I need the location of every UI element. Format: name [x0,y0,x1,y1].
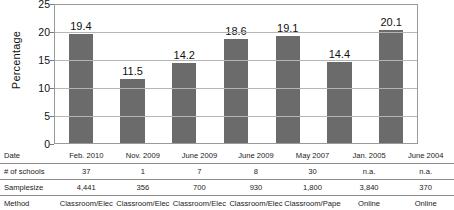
bar-value-label: 20.1 [365,16,417,28]
table-cell: 30 [284,164,341,180]
gridline [55,60,417,61]
table-cell: 356 [115,180,172,196]
y-axis-tickmark [50,4,54,5]
bar-value-label: 14.4 [314,48,366,60]
bar-chart: Percentage 2520151050 19.411.514.218.619… [0,4,454,150]
table-cell: Online [341,196,398,210]
y-axis-tick-label: 25 [22,0,50,9]
table: DateFeb. 2010Nov. 2009June 2009June 2009… [0,148,454,209]
y-axis-tick-label: 20 [22,27,50,38]
gridline [55,116,417,117]
y-axis-label: Percentage [10,10,22,110]
y-axis-tickmark [50,32,54,33]
table-cell: 370 [397,180,454,196]
y-axis-ticks: 2520151050 [22,4,50,144]
bar-series: 19.411.514.218.619.114.420.1 [55,5,417,143]
bar [172,63,196,143]
bar-group: 18.6 [210,5,262,143]
table-row-label: # of schools [0,164,58,180]
table-cell: 930 [228,180,285,196]
table-cell: 8 [228,164,285,180]
table-cell: June 2009 [171,148,228,164]
table-cell: 7 [171,164,228,180]
table-row: # of schools3717830n.a.n.a. [0,164,454,180]
table-cell: June 2004 [397,148,454,164]
table-cell: 1,800 [284,180,341,196]
y-axis-tickmark [50,144,54,145]
table-cell: Feb. 2010 [58,148,115,164]
bar [224,39,248,143]
table-cell: Online [397,196,454,210]
y-axis-tickmark [50,60,54,61]
table-cell: Classroom/Elec [171,196,228,210]
table-row: Samplesize4,4413567009301,8003,840370 [0,180,454,196]
table-cell: Jan. 2005 [341,148,398,164]
table-row-label: Method [0,196,58,210]
bar-value-label: 19.4 [55,20,107,32]
table-row: MethodClassroom/ElecClassroom/ElecClassr… [0,196,454,210]
table-cell: 37 [58,164,115,180]
table-cell: June 2009 [228,148,285,164]
table-row-label: Date [0,148,58,164]
gridline [55,88,417,89]
table-cell: Classroom/Paper [284,196,341,210]
table-cell: Classroom/Elec [228,196,285,210]
table-row: DateFeb. 2010Nov. 2009June 2009June 2009… [0,148,454,164]
table-cell: May 2007 [284,148,341,164]
plot-area: 19.411.514.218.619.114.420.1 [54,4,418,144]
bar [327,62,351,143]
y-axis-tickmark [50,88,54,89]
y-axis-tickmark [50,116,54,117]
bar-value-label: 11.5 [107,65,159,77]
bar-group: 14.2 [158,5,210,143]
bar-group: 20.1 [365,5,417,143]
table-cell: n.a. [397,164,454,180]
bar [379,30,403,143]
table-cell: 700 [171,180,228,196]
figure: Percentage 2520151050 19.411.514.218.619… [0,0,454,209]
bar-group: 19.1 [262,5,314,143]
table-cell: n.a. [341,164,398,180]
table-cell: 3,840 [341,180,398,196]
data-table: DateFeb. 2010Nov. 2009June 2009June 2009… [0,148,454,209]
table-cell: Classroom/Elec [58,196,115,210]
y-axis-tick-label: 10 [22,83,50,94]
gridline [55,32,417,33]
bar-group: 14.4 [314,5,366,143]
table-cell: 1 [115,164,172,180]
bar-group: 19.4 [55,5,107,143]
table-cell: Nov. 2009 [115,148,172,164]
bar [276,36,300,143]
table-cell: Classroom/Elec [115,196,172,210]
bar-group: 11.5 [107,5,159,143]
bar-value-label: 18.6 [210,25,262,37]
y-axis-tick-label: 15 [22,55,50,66]
table-row-label: Samplesize [0,180,58,196]
y-axis-tick-label: 5 [22,111,50,122]
table-cell: 4,441 [58,180,115,196]
